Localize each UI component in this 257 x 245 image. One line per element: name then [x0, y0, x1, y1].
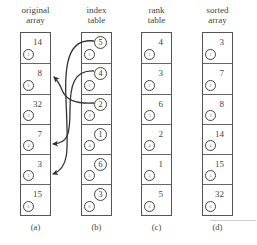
pointer-circle: 3	[94, 188, 107, 201]
array-cell: 65	[82, 154, 111, 184]
index-circle: 5	[84, 170, 95, 181]
scan-line-artifact	[210, 220, 256, 221]
cell-value: 14	[215, 129, 224, 139]
cell-value: 5	[159, 189, 164, 199]
array-box: 141 82 323 74 35 156	[20, 32, 51, 216]
header-line-2: array	[182, 15, 253, 25]
cell-value: 8	[220, 99, 225, 109]
array-cell: 56	[142, 184, 171, 214]
index-circle: 6	[144, 201, 155, 212]
index-circle: 3	[23, 110, 34, 121]
column-caption: (c)	[131, 222, 182, 232]
pointer-circle: 5	[94, 36, 107, 49]
cell-value: 6	[159, 99, 164, 109]
array-cell: 63	[142, 94, 171, 124]
array-cell: 326	[203, 184, 232, 214]
cell-value: 3	[38, 159, 43, 169]
array-cell: 32	[142, 63, 171, 93]
index-circle: 3	[84, 110, 95, 121]
index-circle: 5	[23, 170, 34, 181]
column-rank-table: rank table 41 32 63 24 15 56 (c)	[141, 32, 172, 216]
column-header: sorted array	[182, 5, 253, 25]
cell-value: 14	[33, 37, 42, 47]
cell-value: 2	[159, 129, 164, 139]
index-circle: 6	[205, 201, 216, 212]
cell-value: 7	[220, 68, 225, 78]
index-circle: 1	[84, 49, 95, 60]
cell-value: 3	[220, 37, 225, 47]
index-circle: 1	[23, 49, 34, 60]
index-circle: 1	[144, 49, 155, 60]
array-cell: 156	[21, 184, 50, 214]
cell-value: 3	[159, 68, 164, 78]
cell-value: 4	[159, 37, 164, 47]
array-cell: 23	[82, 94, 111, 124]
pointer-circle: 1	[94, 128, 107, 141]
cell-value: 15	[215, 159, 224, 169]
index-circle: 2	[205, 80, 216, 91]
index-circle: 4	[144, 140, 155, 151]
index-circle: 2	[144, 80, 155, 91]
cell-value: 8	[38, 68, 43, 78]
cell-value: 15	[33, 189, 42, 199]
array-cell: 15	[142, 154, 171, 184]
array-cell: 14	[82, 124, 111, 154]
header-line-1: sorted	[182, 5, 253, 15]
column-sorted-array: sorted array 31 72 83 144 155 326 (d)	[202, 32, 233, 216]
array-cell: 82	[21, 63, 50, 93]
column-caption: (d)	[192, 222, 243, 232]
array-cell: 155	[203, 154, 232, 184]
cell-value: 32	[33, 99, 42, 109]
index-circle: 1	[205, 49, 216, 60]
index-circle: 6	[84, 201, 95, 212]
index-circle: 6	[23, 201, 34, 212]
index-circle: 5	[205, 170, 216, 181]
array-box: 31 72 83 144 155 326	[202, 32, 233, 216]
array-cell: 51	[82, 33, 111, 63]
index-circle: 4	[84, 140, 95, 151]
array-cell: 72	[203, 63, 232, 93]
array-cell: 74	[21, 124, 50, 154]
array-cell: 42	[82, 63, 111, 93]
cell-value: 32	[215, 189, 224, 199]
cell-value: 1	[159, 159, 164, 169]
array-cell: 36	[82, 184, 111, 214]
array-cell: 144	[203, 124, 232, 154]
array-cell: 24	[142, 124, 171, 154]
column-original-array: original array 141 82 323 74 35 156 (a)	[20, 32, 51, 216]
pointer-circle: 6	[94, 158, 107, 171]
column-caption: (b)	[71, 222, 122, 232]
array-box: 41 32 63 24 15 56	[141, 32, 172, 216]
array-box: 51 42 23 14 65 36	[81, 32, 112, 216]
index-circle: 3	[205, 110, 216, 121]
index-circle: 4	[205, 140, 216, 151]
column-index-table: index table 51 42 23 14 65 36 (b)	[81, 32, 112, 216]
array-cell: 141	[21, 33, 50, 63]
array-cell: 323	[21, 94, 50, 124]
array-cell: 31	[203, 33, 232, 63]
index-circle: 3	[144, 110, 155, 121]
index-circle: 2	[23, 80, 34, 91]
index-circle: 2	[84, 80, 95, 91]
array-cell: 41	[142, 33, 171, 63]
pointer-circle: 2	[94, 98, 107, 111]
pointer-circle: 4	[94, 67, 107, 80]
index-circle: 4	[23, 140, 34, 151]
array-cell: 35	[21, 154, 50, 184]
column-caption: (a)	[10, 222, 61, 232]
index-circle: 5	[144, 170, 155, 181]
array-cell: 83	[203, 94, 232, 124]
cell-value: 7	[38, 129, 43, 139]
